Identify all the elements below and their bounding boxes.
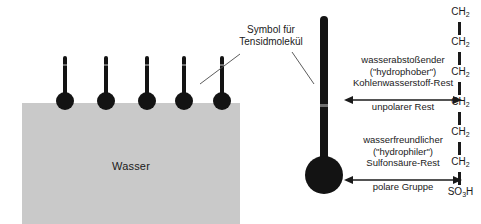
chain-bond [458, 142, 461, 155]
chain-bond [458, 112, 461, 125]
chain-unit-terminal: SO3H [440, 186, 481, 198]
molecule-head [213, 92, 231, 110]
chain-bond [458, 172, 461, 185]
molecule-tail-notch [104, 64, 108, 66]
callout-line-2: Tensidmolekül [239, 36, 302, 47]
water-label: Wasser [22, 160, 240, 172]
callout-line-1: Symbol für [247, 24, 295, 35]
callout-label: Symbol für Tensidmolekül [219, 24, 323, 48]
chemical-formula-chain: CH2 CH2 CH2 CH2 CH2 CH2 SO3H [440, 6, 481, 196]
chain-unit: CH2 [440, 6, 481, 18]
molecule-tail-notch [63, 64, 67, 66]
molecule-tail-notch [220, 64, 224, 66]
surfactant-molecule-small [211, 56, 233, 114]
chain-unit: CH2 [440, 66, 481, 78]
molecule-head [97, 92, 115, 110]
molecule-head [305, 156, 343, 194]
molecule-head [138, 92, 156, 110]
chain-unit: CH2 [440, 36, 481, 48]
chain-unit: CH2 [440, 156, 481, 168]
surfactant-molecule-small [173, 56, 195, 114]
surfactant-molecule-small [54, 56, 76, 114]
chain-bond [458, 52, 461, 65]
chain-bond [458, 22, 461, 35]
molecule-head [56, 92, 74, 110]
surfactant-molecule-small [136, 56, 158, 114]
chain-unit: CH2 [440, 96, 481, 108]
molecule-tail-notch [182, 64, 186, 66]
chain-unit: CH2 [440, 126, 481, 138]
chain-bond [458, 82, 461, 95]
molecule-tail-notch [145, 64, 149, 66]
surfactant-molecule-small [95, 56, 117, 114]
molecule-tail-notch [320, 104, 328, 107]
diagram-canvas: Wasser Symbol für Tensidmolekül [0, 0, 481, 224]
molecule-head [175, 92, 193, 110]
